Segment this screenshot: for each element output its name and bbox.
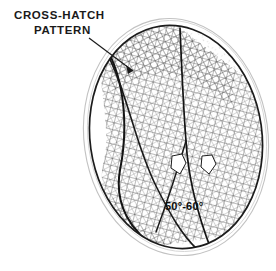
angle-range-label: 50°-60° xyxy=(165,200,203,212)
callout-label-line2: PATTERN xyxy=(34,24,91,36)
callout-label-line1: CROSS-HATCH xyxy=(14,9,105,21)
figure-container: CROSS-HATCH PATTERN 50°-60° xyxy=(0,0,276,271)
diagram-svg: CROSS-HATCH PATTERN 50°-60° xyxy=(0,0,276,271)
